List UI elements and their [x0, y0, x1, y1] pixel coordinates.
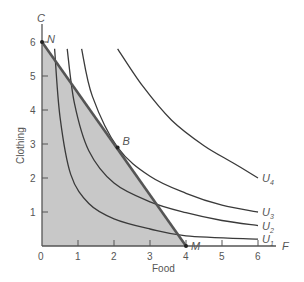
- curve-u4: [118, 49, 258, 178]
- x-axis-end-label: F: [282, 240, 290, 252]
- y-tick-label: 5: [30, 71, 36, 82]
- point-label-n: N: [47, 33, 55, 45]
- x-axis-title: Food: [152, 263, 175, 274]
- x-tick-label: 1: [75, 251, 81, 262]
- y-tick-label: 2: [30, 173, 36, 184]
- y-tick-label: 1: [30, 207, 36, 218]
- curve-label-u4: U4: [262, 172, 274, 186]
- y-tick-label: 3: [30, 139, 36, 150]
- x-tick-label: 3: [147, 251, 153, 262]
- point-label-b: B: [123, 135, 130, 147]
- curve-label-u1: U1: [262, 233, 274, 247]
- x-tick-label: 4: [183, 251, 189, 262]
- point-label-m: M: [191, 240, 201, 252]
- y-tick-label: 6: [30, 37, 36, 48]
- curve-label-u2: U2: [262, 220, 274, 234]
- y-axis-title: Clothing: [15, 127, 26, 164]
- y-axis-end-label: C: [37, 12, 45, 24]
- x-tick-label: 2: [111, 251, 117, 262]
- y-tick-label: 4: [30, 105, 36, 116]
- curve-label-u3: U3: [262, 206, 274, 220]
- chart: U1U2U3U40123456123456FoodClothingCFNMB: [0, 0, 304, 282]
- x-tick-label: 6: [255, 251, 261, 262]
- point-n: [40, 40, 44, 44]
- x-tick-label: 0: [38, 251, 44, 262]
- point-m: [184, 244, 188, 248]
- x-tick-label: 5: [219, 251, 225, 262]
- point-b: [116, 145, 120, 149]
